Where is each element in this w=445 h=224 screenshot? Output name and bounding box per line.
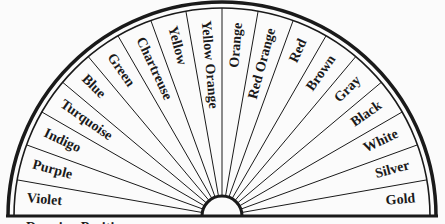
- color-dowsing-chart: VioletPurpleIndigoTurquoiseBlueGreenChar…: [0, 0, 445, 224]
- segment-label-violet: Violet: [26, 190, 63, 208]
- segment-label-black: Black: [348, 97, 385, 129]
- segment-label-yellow: Yellow: [165, 24, 190, 67]
- segment-label-red-orange: Red Orange: [245, 26, 278, 100]
- segment-label-indigo: Indigo: [42, 125, 84, 155]
- segment-label-yellow-orange: Yellow Orange: [199, 20, 222, 109]
- segment-label-chartreuse: Chartreuse: [134, 35, 176, 102]
- segment-label-silver: Silver: [373, 157, 411, 181]
- segment-label-green: Green: [104, 50, 138, 89]
- segment-label-white: White: [361, 126, 400, 155]
- segment-label-gold: Gold: [385, 190, 416, 208]
- segment-label-gray: Gray: [331, 73, 364, 106]
- segment-divider: [63, 82, 207, 203]
- segment-label-brown: Brown: [303, 52, 338, 94]
- segment-label-red: Red: [286, 36, 310, 64]
- segment-label-orange: Orange: [226, 22, 245, 68]
- segment-label-purple: Purple: [31, 157, 74, 182]
- chart-caption: Dowsing Position: [26, 220, 129, 224]
